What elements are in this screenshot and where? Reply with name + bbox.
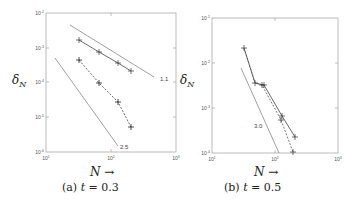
figure: 10-2 10-3 10-4 10-5 10-6 101 102 103 1.1… [0, 0, 357, 204]
y-axis-label-a: δN [12, 73, 27, 89]
y-tick-labels-b: 10-1 10-2 10-3 10-4 [201, 15, 210, 156]
reference-line-1-1 [70, 25, 154, 77]
svg-text:10-2: 10-2 [35, 10, 44, 16]
svg-text:102: 102 [107, 155, 115, 161]
plot-frame-a [46, 13, 176, 152]
y-tick-labels-a: 10-2 10-3 10-4 10-5 10-6 [35, 10, 44, 155]
series-dashed-a [79, 60, 131, 127]
caption-b: (b) t = 0.5 [224, 181, 281, 194]
series-solid-a [79, 40, 131, 71]
series-dashed-b [244, 48, 293, 152]
reference-line-3-0 [241, 68, 279, 153]
panel-b: 10-1 10-2 10-3 10-4 101 102 103 3.0 δN N… [180, 15, 342, 194]
svg-text:103: 103 [172, 155, 180, 161]
y-axis-label-b: δN [180, 73, 195, 89]
svg-text:101: 101 [208, 156, 216, 162]
reference-line-2-5 [55, 58, 118, 146]
panel-a: 10-2 10-3 10-4 10-5 10-6 101 102 103 1.1… [12, 10, 180, 194]
x-axis-label-b: N → [253, 165, 278, 179]
markers-solid-b [241, 45, 298, 140]
y-ticks-b [212, 18, 338, 153]
svg-text:10-1: 10-1 [201, 15, 210, 21]
x-tick-labels-a: 101 102 103 [42, 155, 180, 161]
slope-label-2-5: 2.5 [120, 144, 129, 150]
caption-a: (a) t = 0.3 [62, 181, 119, 194]
svg-text:10-3: 10-3 [35, 45, 44, 51]
markers-dashed-b [259, 82, 296, 155]
svg-text:10-5: 10-5 [35, 114, 44, 120]
slope-label-3-0: 3.0 [254, 123, 263, 129]
plot-frame-b [212, 18, 338, 153]
svg-text:103: 103 [334, 156, 342, 162]
svg-text:10-4: 10-4 [35, 79, 44, 85]
y-ticks-a [46, 13, 176, 152]
slope-label-1-1: 1.1 [160, 76, 169, 82]
svg-text:102: 102 [271, 156, 279, 162]
svg-text:101: 101 [42, 155, 50, 161]
x-axis-label-a: N → [89, 165, 114, 179]
x-tick-labels-b: 101 102 103 [208, 156, 342, 162]
svg-text:10-2: 10-2 [201, 60, 210, 66]
svg-text:10-3: 10-3 [201, 105, 210, 111]
